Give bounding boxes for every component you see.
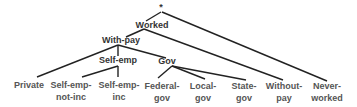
node-with-pay: With-pay — [102, 35, 140, 46]
taxonomy-tree: * Worked With-pay Self-emp Gov Private S… — [0, 0, 357, 107]
leaf-never-worked: Never- worked — [311, 80, 343, 104]
edge-gov-federal — [158, 66, 172, 78]
node-gov: Gov — [158, 56, 176, 67]
leaf-self-emp-inc: Self-emp- inc — [98, 79, 139, 103]
root-node: * — [159, 2, 163, 13]
leaf-federal-gov: Federal- gov — [144, 80, 179, 104]
leaf-private: Private — [14, 79, 44, 91]
node-worked: Worked — [136, 20, 169, 31]
leaf-self-emp-not-inc: Self-emp- not-inc — [50, 79, 91, 103]
node-self-emp: Self-emp — [99, 55, 137, 66]
edge-root-never-worked — [162, 12, 327, 81]
edge-gov-local — [172, 66, 205, 79]
leaf-without-pay: Without- pay — [266, 80, 302, 104]
leaf-state-gov: State- gov — [231, 80, 256, 104]
edge-self-emp-not-inc — [82, 66, 118, 77]
leaf-local-gov: Local- gov — [190, 80, 217, 104]
edge-gov-state — [172, 66, 246, 80]
